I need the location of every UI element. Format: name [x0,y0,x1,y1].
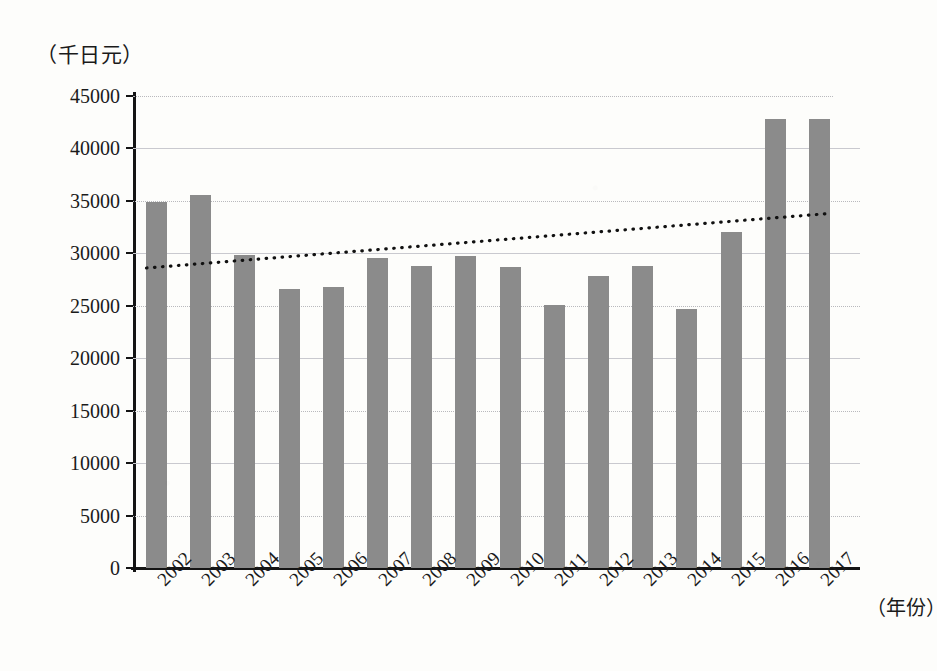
y-axis-tick-label: 30000 [15,242,120,265]
y-axis-tick-label: 35000 [15,189,120,212]
y-axis-tick-label: 45000 [15,85,120,108]
bar-2006[interactable] [323,287,344,568]
bar-2008[interactable] [411,266,432,568]
y-axis-tick-mark [126,95,133,97]
bar-2011[interactable] [544,305,565,568]
y-axis-tick-mark [126,200,133,202]
bar-2007[interactable] [367,258,388,568]
y-axis-tick-mark [126,410,133,412]
gridline [133,96,833,97]
bar-2005[interactable] [279,289,300,568]
y-axis-tick-mark [126,305,133,307]
bar-2016[interactable] [765,119,786,568]
y-axis-tick-label: 5000 [15,504,120,527]
y-axis-tick-label: 40000 [15,137,120,160]
y-axis-tick-mark [126,147,133,149]
bar-2010[interactable] [500,267,521,568]
y-axis-tick-mark [126,252,133,254]
y-axis-tick-mark [126,515,133,517]
gridline [133,148,860,149]
plot-area: 4500040000350003000025000200001500010000… [133,96,860,568]
y-axis-unit-caption: （千日元） [36,38,144,68]
bar-2012[interactable] [588,276,609,568]
y-axis-tick-label: 15000 [15,399,120,422]
bar-2004[interactable] [234,255,255,568]
bar-2009[interactable] [455,256,476,568]
gridline [133,253,860,254]
bar-2013[interactable] [632,266,653,568]
y-axis-tick-label: 25000 [15,294,120,317]
x-axis-caption: （年份） [866,592,937,621]
y-axis-tick-label: 20000 [15,347,120,370]
bar-2015[interactable] [721,232,742,568]
bar-2014[interactable] [676,309,697,568]
y-axis-tick-mark [126,462,133,464]
y-axis-tick-label: 0 [15,557,120,580]
y-axis-tick-mark [126,357,133,359]
bar-2002[interactable] [146,202,167,568]
bar-2003[interactable] [190,195,211,568]
y-axis-tick-mark [126,567,133,569]
gridline [133,201,860,202]
y-axis-tick-label: 10000 [15,452,120,475]
bar-2017[interactable] [809,119,830,568]
